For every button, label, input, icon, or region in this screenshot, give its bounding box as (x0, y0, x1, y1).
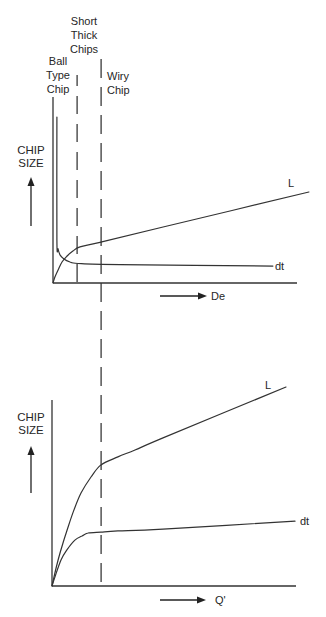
region-label-ball-type-chip: Ball Type Chip (46, 55, 70, 95)
y-axis-label-line: SIZE (18, 157, 44, 169)
series-dt-label: dt (275, 260, 284, 272)
y-axis-label-line: CHIP (17, 144, 45, 156)
region-label-line: Ball (49, 55, 67, 67)
region-label-line: Type (46, 69, 70, 81)
region-label-line: Chip (47, 83, 70, 95)
region-label-line: Chip (107, 84, 130, 96)
x-axis-label: De (211, 290, 225, 302)
series-L-label: L (288, 177, 294, 189)
series-L-label: L (265, 379, 271, 391)
y-axis-label-line: CHIP (17, 411, 45, 423)
region-label-short-thick-chips: Short Thick Chips (70, 15, 99, 55)
series-dt-label: dt (300, 515, 309, 527)
y-axis-label-line: SIZE (18, 424, 44, 436)
region-label-line: Short (71, 15, 97, 27)
region-label-line: Wiry (107, 70, 129, 82)
chip-size-diagram: Short Thick Chips Ball Type Chip Wiry Ch… (0, 0, 326, 617)
region-label-line: Chips (70, 43, 99, 55)
x-axis-label: Q' (215, 594, 226, 606)
region-label-line: Thick (71, 29, 98, 41)
